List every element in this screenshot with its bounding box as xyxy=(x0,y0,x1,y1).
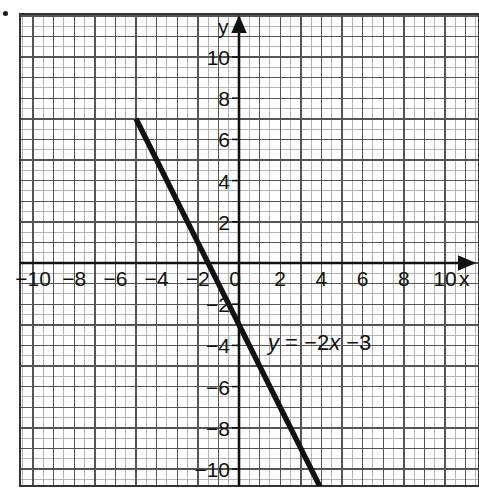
equation-equals: = xyxy=(279,330,304,355)
y-axis-label: y xyxy=(218,16,229,37)
x-tick-label-8: 8 xyxy=(398,268,410,289)
y-tick-label--6: −6 xyxy=(206,376,230,397)
x-tick-label-6: 6 xyxy=(357,268,369,289)
y-tick-label--10: −10 xyxy=(194,459,230,480)
y-tick-label-2: 2 xyxy=(218,211,230,232)
x-tick-label--10: −10 xyxy=(15,268,51,289)
y-tick-label-6: 6 xyxy=(218,129,230,150)
x-tick-label-2: 2 xyxy=(274,268,286,289)
x-tick-label-0: 0 xyxy=(229,268,241,289)
x-tick-label--4: −4 xyxy=(145,268,169,289)
equation-label: y = −2x −3 xyxy=(268,332,371,354)
x-axis-label: x xyxy=(459,268,470,289)
y-tick-label--2: −2 xyxy=(206,294,230,315)
x-tick-label-4: 4 xyxy=(316,268,328,289)
x-tick-label--6: −6 xyxy=(103,268,127,289)
coordinate-plane xyxy=(0,0,479,500)
graph-figure: −10−8−6−4−20246810−10−8−6−4−2246810xyy =… xyxy=(0,0,479,500)
y-tick-label--4: −4 xyxy=(206,335,230,356)
y-tick-label-4: 4 xyxy=(218,170,230,191)
equation-intercept-term: −3 xyxy=(340,330,371,355)
equation-slope-term: −2x xyxy=(304,330,340,355)
y-tick-label-8: 8 xyxy=(218,88,230,109)
x-tick-label-10: 10 xyxy=(433,268,456,289)
y-tick-label--8: −8 xyxy=(206,417,230,438)
x-tick-label--8: −8 xyxy=(62,268,86,289)
y-tick-label-10: 10 xyxy=(207,47,230,68)
equation-lhs: y xyxy=(268,330,279,355)
x-tick-label--2: −2 xyxy=(186,268,210,289)
